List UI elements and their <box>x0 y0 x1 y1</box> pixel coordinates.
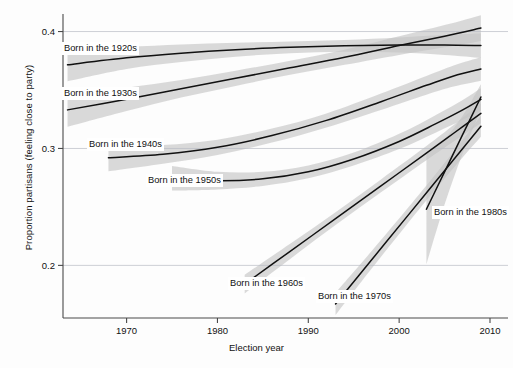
confidence-bands-group <box>68 15 481 315</box>
series-label-4: Born in the 1960s <box>228 277 305 290</box>
y-tick-label-2: 0.4 <box>42 26 55 37</box>
cohort-partisanship-line-chart: 0.20.30.419701980199020002010 <box>0 0 513 368</box>
chart-root: 0.20.30.419701980199020002010 Proportion… <box>0 0 513 368</box>
series-label-3: Born in the 1950s <box>146 174 223 187</box>
series-label-0: Born in the 1920s <box>62 42 139 55</box>
x-tick-label-3: 2000 <box>389 325 410 336</box>
y-tick-label-1: 0.3 <box>42 143 55 154</box>
series-label-5: Born in the 1970s <box>316 290 393 303</box>
x-tick-label-1: 1980 <box>207 325 228 336</box>
y-axis-title: Proportion partisans (feeling close to p… <box>23 38 34 278</box>
series-label-1: Born in the 1930s <box>62 87 139 100</box>
x-axis-title: Election year <box>0 342 513 353</box>
series-label-2: Born in the 1940s <box>87 138 164 151</box>
x-tick-label-2: 1990 <box>298 325 319 336</box>
y-tick-label-0: 0.2 <box>42 260 55 271</box>
x-tick-label-4: 2010 <box>479 325 500 336</box>
series-label-6: Born in the 1980s <box>432 206 509 219</box>
x-tick-label-0: 1970 <box>116 325 137 336</box>
